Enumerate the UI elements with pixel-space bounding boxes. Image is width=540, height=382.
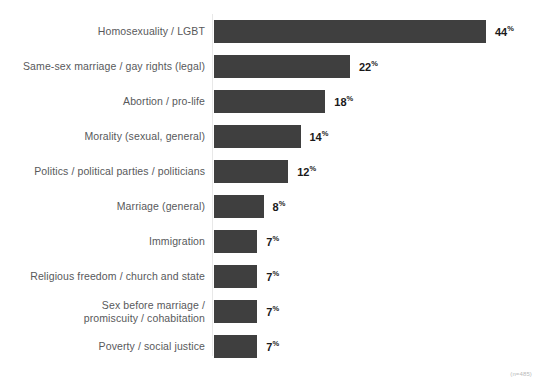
category-label: Sex before marriage /promiscuity / cohab… [0, 299, 205, 324]
percent-sign: % [279, 199, 286, 208]
value-label: 14% [310, 131, 329, 143]
percent-sign: % [272, 339, 279, 348]
percent-sign: % [507, 24, 514, 33]
category-label: Morality (sexual, general) [0, 130, 205, 143]
category-label: Homosexuality / LGBT [0, 25, 205, 38]
value-label: 8% [273, 201, 286, 213]
bar [214, 230, 257, 253]
bar-with-value: 22% [214, 55, 378, 78]
bar [214, 300, 257, 323]
bar-row: Politics / political parties / politicia… [0, 154, 540, 189]
bar [214, 125, 301, 148]
bar-with-value: 7% [214, 335, 279, 358]
category-label: Immigration [0, 235, 205, 248]
category-label: Poverty / social justice [0, 340, 205, 353]
percent-sign: % [322, 129, 329, 138]
bar [214, 195, 264, 218]
percent-sign: % [347, 94, 354, 103]
bar-with-value: 7% [214, 230, 279, 253]
category-label: Politics / political parties / politicia… [0, 165, 205, 178]
bar-with-value: 44% [214, 20, 514, 43]
bar-row: Religious freedom / church and state7% [0, 259, 540, 294]
category-label: Abortion / pro-life [0, 95, 205, 108]
bar-row: Immigration7% [0, 224, 540, 259]
value-label: 18% [334, 96, 353, 108]
category-label: Same-sex marriage / gay rights (legal) [0, 60, 205, 73]
bar [214, 55, 350, 78]
value-label: 7% [266, 341, 279, 353]
bar-rows-container: Homosexuality / LGBT44%Same-sex marriage… [0, 14, 540, 364]
bar [214, 160, 288, 183]
bar-with-value: 14% [214, 125, 328, 148]
percent-sign: % [309, 164, 316, 173]
plot-area: Homosexuality / LGBT44%Same-sex marriage… [0, 14, 540, 364]
category-label: Marriage (general) [0, 200, 205, 213]
bar-with-value: 18% [214, 90, 353, 113]
value-label: 22% [359, 61, 378, 73]
bar [214, 265, 257, 288]
sample-size-footnote: (n=485) [510, 371, 532, 377]
bar-with-value: 12% [214, 160, 316, 183]
category-label: Religious freedom / church and state [0, 270, 205, 283]
percent-sign: % [272, 234, 279, 243]
bar-row: Abortion / pro-life18% [0, 84, 540, 119]
bar-row: Homosexuality / LGBT44% [0, 14, 540, 49]
bar-row: Same-sex marriage / gay rights (legal)22… [0, 49, 540, 84]
bar-with-value: 7% [214, 265, 279, 288]
percent-sign: % [272, 269, 279, 278]
bar-row: Marriage (general)8% [0, 189, 540, 224]
bar-row: Morality (sexual, general)14% [0, 119, 540, 154]
bar-row: Poverty / social justice7% [0, 329, 540, 364]
bar-row: Sex before marriage /promiscuity / cohab… [0, 294, 540, 329]
bar-with-value: 8% [214, 195, 285, 218]
bar-chart: Homosexuality / LGBT44%Same-sex marriage… [0, 0, 540, 382]
percent-sign: % [272, 304, 279, 313]
value-label: 12% [297, 166, 316, 178]
value-label: 44% [495, 26, 514, 38]
bar [214, 90, 325, 113]
value-label: 7% [266, 236, 279, 248]
bar [214, 20, 486, 43]
bar [214, 335, 257, 358]
bar-with-value: 7% [214, 300, 279, 323]
percent-sign: % [371, 59, 378, 68]
value-label: 7% [266, 306, 279, 318]
value-label: 7% [266, 271, 279, 283]
